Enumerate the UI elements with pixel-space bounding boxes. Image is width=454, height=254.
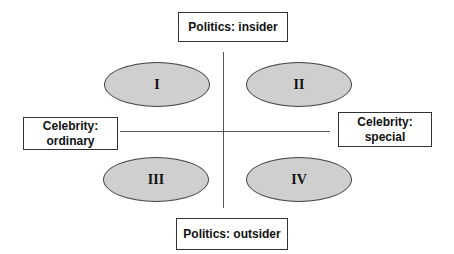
- axis-label-line1: Celebrity:: [43, 119, 98, 134]
- quadrant-label: IV: [291, 172, 307, 188]
- axis-label-celebrity-special: Celebrity: special: [338, 112, 432, 147]
- axis-label-line2: special: [365, 130, 406, 145]
- axis-label-politics-outsider: Politics: outsider: [176, 218, 288, 250]
- horizontal-axis-line: [120, 131, 330, 132]
- axis-label-celebrity-ordinary: Celebrity: ordinary: [23, 117, 118, 150]
- quadrant-ellipse-II: II: [246, 62, 352, 107]
- axis-label-text: Politics: outsider: [183, 227, 280, 242]
- axis-label-line2: ordinary: [46, 134, 94, 149]
- quadrant-ellipse-III: III: [103, 157, 209, 202]
- axis-label-politics-insider: Politics: insider: [178, 12, 288, 42]
- quadrant-ellipse-IV: IV: [246, 157, 352, 202]
- quadrant-label: III: [148, 172, 164, 188]
- vertical-axis-line: [223, 52, 224, 208]
- quadrant-label: II: [294, 77, 305, 93]
- quadrant-ellipse-I: I: [104, 62, 210, 107]
- axis-label-line1: Celebrity:: [357, 115, 412, 130]
- quadrant-label: I: [154, 77, 159, 93]
- axis-label-text: Politics: insider: [188, 20, 277, 35]
